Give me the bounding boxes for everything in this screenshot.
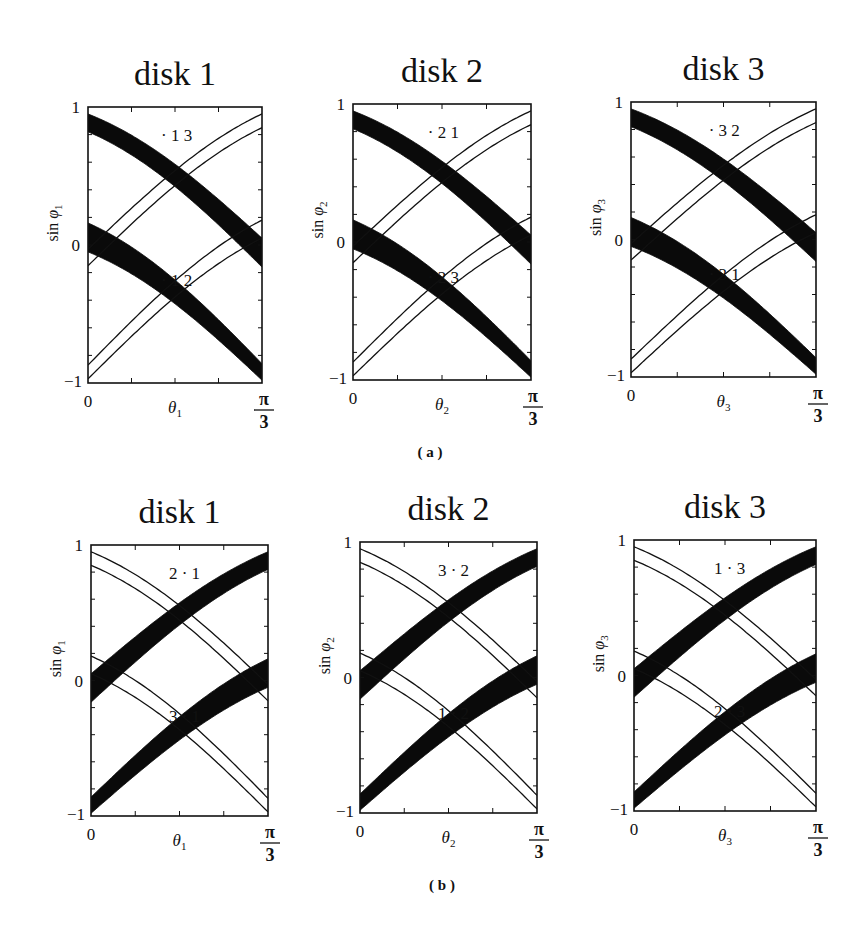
x-tick-label: 0	[627, 386, 636, 405]
y-tick-label: 0	[618, 667, 627, 686]
x-axis-label: θ1	[168, 398, 182, 419]
panel-title: disk 1	[134, 55, 216, 92]
x-axis-label: θ1	[173, 831, 187, 852]
plot-area	[634, 547, 816, 809]
thick-band	[631, 218, 816, 375]
y-tick-label: −1	[329, 369, 347, 388]
x-tick-label: 0	[87, 825, 96, 844]
svg-text:π: π	[259, 389, 269, 409]
curve-annotation: · 2 3	[428, 268, 459, 287]
panel-title: disk 1	[138, 493, 220, 530]
panel-title: disk 2	[407, 490, 489, 527]
thick-band	[634, 654, 816, 809]
x-tick-label-pi-over-3: π3	[523, 386, 543, 429]
y-tick-label: 0	[75, 672, 84, 691]
x-tick-label: 0	[349, 389, 358, 408]
curve-annotation: 2 · 3	[714, 702, 745, 721]
plot-area	[631, 109, 816, 374]
thick-band	[353, 220, 531, 377]
svg-text:π: π	[813, 817, 823, 837]
thick-band	[360, 656, 537, 811]
subfigure-caption-a: ( a )	[418, 444, 443, 461]
panel-title: disk 3	[682, 50, 764, 87]
svg-text:3: 3	[814, 406, 823, 426]
thick-band	[91, 659, 268, 814]
x-axis-label: θ2	[435, 395, 449, 416]
y-tick-label: 0	[72, 236, 81, 255]
chart-panel-a3: disk 310−1sin φ30π3θ3· 3 2· 3 1	[587, 50, 828, 426]
y-tick-label: −1	[610, 800, 628, 819]
x-tick-label: 0	[356, 822, 365, 841]
x-tick-label: 0	[84, 392, 93, 411]
y-tick-label: 1	[337, 95, 346, 114]
svg-text:π: π	[813, 383, 823, 403]
plot-area	[88, 114, 262, 380]
svg-text:π: π	[265, 822, 275, 842]
plot-area	[353, 111, 531, 377]
curve-annotation: 1 · 3	[714, 559, 745, 578]
svg-text:3: 3	[529, 409, 538, 429]
curve-annotation: · 2 1	[428, 123, 459, 142]
svg-text:π: π	[534, 819, 544, 839]
y-tick-label: 1	[344, 533, 353, 552]
x-tick-label-pi-over-3: π3	[808, 817, 828, 860]
y-tick-label: 0	[344, 669, 353, 688]
x-tick-label-pi-over-3: π3	[254, 389, 274, 432]
chart-panel-a1: disk 110−1sin φ10π3θ1· 1 3· 1 2	[44, 55, 274, 432]
y-tick-label: 1	[75, 536, 84, 555]
x-axis-label: θ3	[717, 392, 731, 413]
svg-text:3: 3	[535, 842, 544, 862]
y-tick-label: 0	[615, 231, 624, 250]
curve-annotation: · 1 3	[161, 126, 192, 145]
y-axis-label: sin φ2	[316, 637, 336, 674]
subfigure-caption-b: ( b )	[429, 877, 455, 894]
y-tick-label: 1	[618, 531, 627, 550]
x-tick-label: 0	[630, 820, 639, 839]
figure-canvas: disk 110−1sin φ10π3θ1· 1 3· 1 2disk 210−…	[0, 0, 862, 925]
y-tick-label: −1	[607, 366, 625, 385]
curve-annotation: 3 · 1	[169, 707, 200, 726]
curve-annotation: 1 · 2	[438, 704, 469, 723]
chart-panel-b2: disk 210−1sin φ20π3θ23 · 21 · 2	[316, 490, 549, 862]
svg-text:3: 3	[266, 845, 275, 865]
y-tick-label: 1	[72, 98, 81, 117]
y-tick-label: −1	[336, 802, 354, 821]
y-tick-label: 1	[615, 93, 624, 112]
y-axis-label: sin φ1	[47, 640, 67, 677]
svg-text:π: π	[528, 386, 538, 406]
plot-area	[91, 552, 268, 814]
x-tick-label-pi-over-3: π3	[808, 383, 828, 426]
x-tick-label-pi-over-3: π3	[260, 822, 280, 865]
curve-annotation: 3 · 2	[438, 561, 469, 580]
svg-text:3: 3	[814, 840, 823, 860]
curve-annotation: · 3 1	[709, 265, 740, 284]
y-tick-label: 0	[337, 233, 346, 252]
y-axis-label: sin φ2	[309, 201, 329, 238]
curve-annotation: 2 · 1	[169, 564, 200, 583]
y-axis-label: sin φ3	[590, 635, 610, 673]
y-tick-label: −1	[64, 372, 82, 391]
chart-panel-a2: disk 210−1sin φ20π3θ2· 2 1· 2 3	[309, 52, 543, 429]
y-axis-label: sin φ1	[44, 204, 64, 241]
plot-area	[360, 549, 537, 811]
thick-band	[88, 223, 262, 380]
curve-annotation: · 3 2	[709, 121, 740, 140]
x-axis-label: θ3	[718, 826, 732, 847]
curve-annotation: · 1 2	[161, 271, 192, 290]
x-tick-label-pi-over-3: π3	[529, 819, 549, 862]
chart-panel-b1: disk 110−1sin φ10π3θ12 · 13 · 1	[47, 493, 280, 865]
chart-panel-b3: disk 310−1sin φ30π3θ31 · 32 · 3	[590, 488, 828, 860]
svg-text:3: 3	[260, 412, 269, 432]
panel-title: disk 3	[684, 488, 766, 525]
y-tick-label: −1	[67, 805, 85, 824]
panel-title: disk 2	[401, 52, 483, 89]
x-axis-label: θ2	[442, 828, 456, 849]
y-axis-label: sin φ3	[587, 198, 607, 236]
